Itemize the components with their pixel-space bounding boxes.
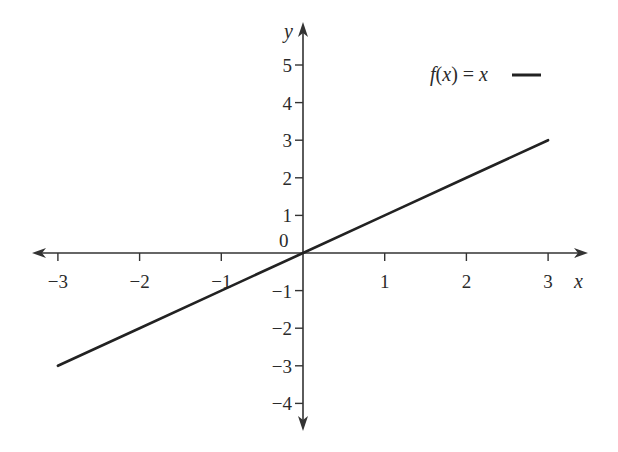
y-tick-label: 2 xyxy=(283,168,293,189)
x-tick-label: −1 xyxy=(211,271,231,292)
y-tick-label: −4 xyxy=(272,393,293,414)
axes xyxy=(32,22,588,431)
x-tick-label: −2 xyxy=(129,271,149,292)
tick-labels: −3−2−1123−4−3−2−112345 xyxy=(48,55,553,414)
x-tick-label: 2 xyxy=(462,271,472,292)
y-tick-label: 1 xyxy=(283,205,293,226)
y-tick-label: 4 xyxy=(283,93,293,114)
legend-close-paren: ) xyxy=(451,63,458,86)
y-tick-label: 3 xyxy=(283,130,293,151)
x-tick-label: 1 xyxy=(380,271,390,292)
y-tick-label: −3 xyxy=(272,356,292,377)
y-axis-label: y xyxy=(282,20,293,43)
legend-var: x xyxy=(441,63,451,85)
x-tick-label: −3 xyxy=(48,271,68,292)
legend-label: f(x) = x xyxy=(430,63,488,86)
y-tick-label: −1 xyxy=(272,281,292,302)
chart-canvas: −3−2−1123−4−3−2−112345 x y 0 f(x) = x xyxy=(0,0,618,452)
x-axis-label: x xyxy=(573,270,583,292)
y-tick-label: −2 xyxy=(272,318,292,339)
y-tick-label: 5 xyxy=(283,55,293,76)
legend: f(x) = x xyxy=(430,63,541,86)
legend-rhs: x xyxy=(478,63,488,85)
origin-label: 0 xyxy=(279,230,289,251)
legend-equals: = xyxy=(458,63,479,85)
x-tick-label: 3 xyxy=(543,271,553,292)
function-graph: −3−2−1123−4−3−2−112345 x y 0 f(x) = x xyxy=(0,0,618,452)
